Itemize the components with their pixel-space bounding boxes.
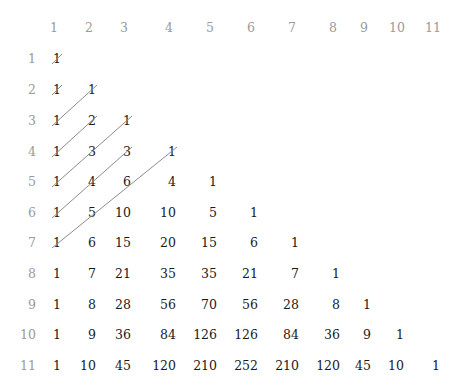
table-cell: 1 bbox=[300, 267, 340, 281]
table-cell: 2 bbox=[56, 114, 96, 128]
table-cell: 15 bbox=[177, 236, 217, 250]
table-cell: 21 bbox=[91, 267, 131, 281]
table-cell: 210 bbox=[259, 359, 299, 373]
table-cell: 84 bbox=[259, 328, 299, 342]
table-cell: 21 bbox=[218, 267, 258, 281]
column-header: 3 bbox=[109, 21, 139, 35]
table-cell: 126 bbox=[177, 328, 217, 342]
table-cell: 1 bbox=[136, 145, 176, 159]
table-cell: 1 bbox=[21, 114, 61, 128]
table-cell: 20 bbox=[136, 236, 176, 250]
column-header: 9 bbox=[349, 21, 379, 35]
table-cell: 3 bbox=[56, 145, 96, 159]
table-cell: 15 bbox=[91, 236, 131, 250]
table-cell: 1 bbox=[21, 298, 61, 312]
table-cell: 1 bbox=[218, 206, 258, 220]
table-cell: 1 bbox=[91, 114, 131, 128]
table-cell: 6 bbox=[218, 236, 258, 250]
column-header: 2 bbox=[74, 21, 104, 35]
table-cell: 1 bbox=[331, 298, 371, 312]
table-cell: 4 bbox=[56, 175, 96, 189]
table-cell: 1 bbox=[21, 175, 61, 189]
table-cell: 1 bbox=[364, 328, 404, 342]
table-cell: 6 bbox=[56, 236, 96, 250]
table-cell: 1 bbox=[259, 236, 299, 250]
table-cell: 28 bbox=[259, 298, 299, 312]
column-header: 4 bbox=[154, 21, 184, 35]
table-cell: 8 bbox=[56, 298, 96, 312]
table-cell: 1 bbox=[21, 267, 61, 281]
column-header: 1 bbox=[39, 21, 69, 35]
table-cell: 1 bbox=[21, 52, 61, 66]
table-cell: 56 bbox=[136, 298, 176, 312]
table-cell: 10 bbox=[56, 359, 96, 373]
table-cell: 210 bbox=[177, 359, 217, 373]
table-cell: 1 bbox=[21, 145, 61, 159]
table-cell: 1 bbox=[21, 206, 61, 220]
column-header: 6 bbox=[236, 21, 266, 35]
table-cell: 10 bbox=[364, 359, 404, 373]
table-cell: 35 bbox=[136, 267, 176, 281]
table-cell: 120 bbox=[136, 359, 176, 373]
table-cell: 10 bbox=[136, 206, 176, 220]
table-cell: 35 bbox=[177, 267, 217, 281]
column-header: 8 bbox=[318, 21, 348, 35]
table-cell: 84 bbox=[136, 328, 176, 342]
table-cell: 1 bbox=[177, 175, 217, 189]
table-cell: 1 bbox=[21, 236, 61, 250]
table-cell: 5 bbox=[177, 206, 217, 220]
column-header: 7 bbox=[277, 21, 307, 35]
table-cell: 6 bbox=[91, 175, 131, 189]
column-header: 11 bbox=[418, 21, 448, 35]
table-cell: 70 bbox=[177, 298, 217, 312]
table-cell: 7 bbox=[259, 267, 299, 281]
table-cell: 1 bbox=[21, 83, 61, 97]
table-cell: 4 bbox=[136, 175, 176, 189]
table-cell: 1 bbox=[56, 83, 96, 97]
table-cell: 1 bbox=[21, 328, 61, 342]
table-cell: 252 bbox=[218, 359, 258, 373]
table-cell: 1 bbox=[21, 359, 61, 373]
diagonal-line bbox=[52, 147, 177, 248]
table-cell: 10 bbox=[91, 206, 131, 220]
table-cell: 45 bbox=[91, 359, 131, 373]
column-header: 5 bbox=[195, 21, 225, 35]
column-header: 10 bbox=[382, 21, 412, 35]
table-cell: 5 bbox=[56, 206, 96, 220]
table-cell: 3 bbox=[91, 145, 131, 159]
table-cell: 7 bbox=[56, 267, 96, 281]
table-cell: 126 bbox=[218, 328, 258, 342]
table-cell: 56 bbox=[218, 298, 258, 312]
table-cell: 9 bbox=[56, 328, 96, 342]
table-cell: 1 bbox=[400, 359, 440, 373]
table-cell: 28 bbox=[91, 298, 131, 312]
table-cell: 36 bbox=[91, 328, 131, 342]
